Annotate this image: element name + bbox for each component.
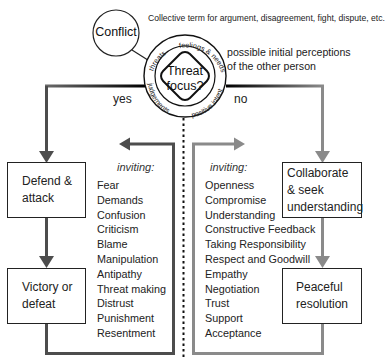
threat-focus-line1: Threat xyxy=(160,64,210,79)
arrow-down-icon xyxy=(39,256,54,268)
list-item: Respect and Goodwill xyxy=(205,252,315,267)
list-item: Compromise xyxy=(205,193,315,208)
list-item: Confusion xyxy=(97,208,166,223)
list-item: Acceptance xyxy=(205,326,315,341)
conflict-label: Conflict xyxy=(93,25,139,39)
list-item: Resentment xyxy=(97,326,166,341)
list-item: Criticism xyxy=(97,222,166,237)
list-item: Understanding xyxy=(205,208,315,223)
list-item: Empathy xyxy=(205,267,315,282)
list-item: Distrust xyxy=(97,296,166,311)
defend-attack-line1: Defend & xyxy=(22,173,72,190)
conflict-description: Collective term for argument, disagreeme… xyxy=(148,14,385,23)
list-item: Support xyxy=(205,311,315,326)
yes-branch-line xyxy=(45,85,145,88)
list-item: Manipulation xyxy=(97,252,166,267)
list-item: Antipathy xyxy=(97,267,166,282)
perceptions-note: possible initial perceptions of the othe… xyxy=(227,46,351,73)
perceptions-note-line1: possible initial perceptions xyxy=(227,46,351,60)
no-branch-line xyxy=(226,85,324,88)
list-item: Trust xyxy=(205,296,315,311)
list-item: Constructive Feedback xyxy=(205,222,315,237)
defend-attack-line2: attack xyxy=(22,190,72,207)
list-item: Fear xyxy=(97,178,166,193)
list-item: Negotiation xyxy=(205,282,315,297)
arrow-down-icon xyxy=(315,256,330,268)
arrow-right-icon xyxy=(234,138,245,151)
victory-defeat-line2: defeat xyxy=(22,296,72,313)
list-item: Blame xyxy=(97,237,166,252)
right-inviting-label: inviting: xyxy=(210,162,247,173)
list-item: Threat making xyxy=(97,282,166,297)
no-label: no xyxy=(234,93,247,105)
defend-attack-box: Defend & attack xyxy=(7,162,86,218)
right-inviting-list: Openness Compromise Understanding Constr… xyxy=(205,178,315,341)
list-item: Demands xyxy=(97,193,166,208)
perceptions-note-line2: of the other person xyxy=(227,60,351,74)
victory-defeat-line1: Victory or xyxy=(22,279,72,296)
list-item: Openness xyxy=(205,178,315,193)
list-item: Taking Responsibility xyxy=(205,237,315,252)
left-inviting-list: Fear Demands Confusion Criticism Blame M… xyxy=(97,178,166,341)
arrow-left-icon xyxy=(119,138,130,151)
yes-label: yes xyxy=(113,93,132,105)
left-inviting-label: inviting: xyxy=(117,162,154,173)
victory-defeat-box: Victory or defeat xyxy=(7,268,86,324)
list-item: Punishment xyxy=(97,311,166,326)
threat-focus-question: Threat focus? xyxy=(160,64,210,94)
threat-focus-line2: focus? xyxy=(160,79,210,94)
